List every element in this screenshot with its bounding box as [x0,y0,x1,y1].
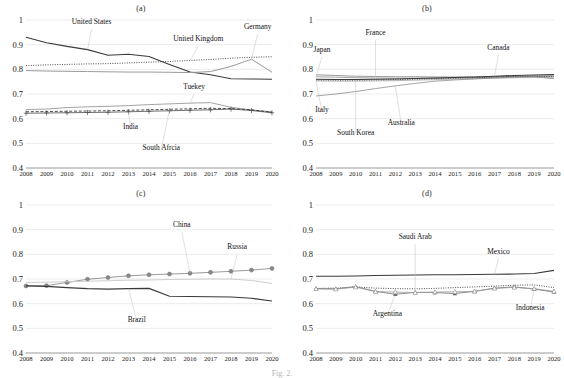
x-tick-label: 2014 [428,170,441,177]
y-tick-label: 0.9 [302,40,313,49]
x-tick-label: 2015 [163,170,176,177]
panel-b-y-axis: 10.90.80.70.60.50.4 [294,20,314,168]
panel-b: (b) 10.90.80.70.60.50.4 FranceJapanCanad… [290,4,564,186]
figure-caption: Fig. 2. [0,369,564,378]
panel-b-plot: FranceJapanCanadaItalySouth KoreaAustral… [316,20,554,168]
x-tick-label: 2010 [60,170,73,177]
x-tick-label: 2011 [81,355,94,362]
annotation-label: France [365,29,385,37]
x-tick-label: 2008 [309,170,322,177]
x-tick-label: 2019 [245,355,258,362]
x-tick-label: 2020 [547,170,560,177]
y-tick-label: 0.8 [12,65,23,74]
series-brazil [26,286,272,301]
x-tick-label: 2017 [204,355,217,362]
annotation-label: Canada [487,44,509,52]
x-tick-label: 2018 [508,170,521,177]
panel-a-plot: United StatesUnited KingdomGermanyTuekey… [26,20,272,168]
leader-line [316,57,322,77]
leader-line [190,46,198,60]
leader-line [495,55,499,77]
annotation-label: China [173,221,191,229]
leader-line [495,259,499,275]
y-tick-label: 0.7 [12,90,23,99]
y-tick-label: 0.9 [12,225,23,234]
x-tick-label: 2019 [528,170,541,177]
annotation-label: United Kingdom [173,35,223,43]
panel-c-y-axis: 10.90.80.70.60.50.4 [4,205,24,353]
x-tick-label: 2012 [389,355,402,362]
x-tick-label: 2013 [409,355,422,362]
x-tick-label: 2018 [224,170,237,177]
annotation-label: Mexico [487,248,510,256]
x-tick-label: 2011 [81,170,94,177]
series-china [24,266,274,288]
annotation-label: Saudi Arab [399,233,432,241]
y-tick-label: 0.9 [302,225,313,234]
y-tick-label: 0.5 [12,324,23,333]
annotation-label: Argentina [373,310,402,318]
panel-c-plotwrap: 10.90.80.70.60.50.4 ChinaRussiaBrazil 20… [26,205,272,353]
panel-b-x-axis: 2008200920102011201220132014201520162017… [316,168,554,180]
x-tick-label: 2020 [265,170,278,177]
x-tick-label: 2014 [142,355,155,362]
x-tick-label: 2008 [19,355,32,362]
annotation-label: South Korea [337,129,374,137]
x-tick-label: 2019 [245,170,258,177]
y-tick-label: 0.6 [302,299,313,308]
panel-c-plot: ChinaRussiaBrazil [26,205,272,353]
x-tick-label: 2011 [369,355,382,362]
panel-d-title: (d) [290,189,564,198]
leader-line [252,34,258,59]
annotation-label: Indonesia [516,304,545,312]
x-tick-label: 2015 [448,170,461,177]
y-tick-label: 0.5 [12,139,23,148]
y-tick-label: 0.8 [302,65,313,74]
x-tick-label: 2020 [547,355,560,362]
x-tick-label: 2010 [349,170,362,177]
leader-line [88,29,92,49]
annotation-label: United States [72,18,112,26]
x-tick-label: 2010 [60,355,73,362]
x-tick-label: 2008 [19,170,32,177]
x-tick-label: 2015 [448,355,461,362]
x-tick-label: 2016 [183,170,196,177]
panel-a-title: (a) [0,4,282,13]
x-tick-label: 2014 [428,355,441,362]
x-tick-label: 2012 [101,170,114,177]
series-germany [26,59,272,72]
leader-line [182,232,190,273]
x-tick-label: 2009 [329,355,342,362]
panel-c-canvas [26,205,272,353]
panel-b-plotwrap: 10.90.80.70.60.50.4 FranceJapanCanadaIta… [316,20,554,168]
annotation-label: Australia [388,119,415,127]
panel-d: (d) 10.90.80.70.60.50.4 Saudi ArabMexico… [290,189,564,371]
y-tick-label: 0.9 [12,40,23,49]
y-tick-label: 0.7 [302,90,313,99]
annotation-label: Germany [244,23,272,31]
panel-c: (c) 10.90.80.70.60.50.4 ChinaRussiaBrazi… [0,189,282,371]
y-tick-label: 0.6 [12,299,23,308]
annotation-label: South Afrcia [143,144,181,152]
y-tick-label: 1 [309,16,313,25]
x-tick-label: 2013 [122,355,135,362]
y-tick-label: 0.7 [12,275,23,284]
x-tick-label: 2014 [142,170,155,177]
panel-a-plotwrap: 10.90.80.70.60.50.4 United StatesUnited … [26,20,272,168]
panel-d-canvas [316,205,554,353]
leader-line [231,254,237,279]
annotation-label: Russia [227,243,247,251]
panel-c-title: (c) [0,189,282,198]
y-tick-label: 0.5 [302,324,313,333]
x-tick-label: 2015 [163,355,176,362]
x-tick-label: 2019 [528,355,541,362]
x-tick-label: 2013 [409,170,422,177]
x-tick-label: 2018 [224,355,237,362]
panel-c-x-axis: 2008200920102011201220132014201520162017… [26,353,272,365]
x-tick-label: 2008 [309,355,322,362]
panel-a: (a) 10.90.80.70.60.50.4 United StatesUni… [0,4,282,186]
x-tick-label: 2017 [488,355,501,362]
series-mexico [316,270,554,276]
x-tick-label: 2018 [508,355,521,362]
panel-a-y-axis: 10.90.80.70.60.50.4 [4,20,24,168]
